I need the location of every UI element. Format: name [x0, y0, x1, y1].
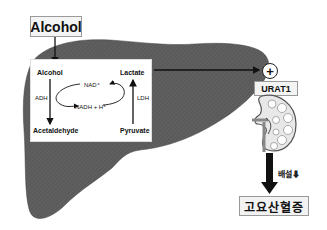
excretion-label: 배설⬇: [278, 168, 300, 179]
alcohol-label: Alcohol: [37, 69, 63, 76]
adh-enzyme-label: ADH: [35, 95, 48, 101]
stimulation-plus-icon: +: [262, 63, 278, 79]
decrease-arrow-icon: ⬇: [292, 170, 300, 179]
nadh-label: NADH + H⁺: [75, 103, 106, 110]
lactate-label: Lactate: [120, 69, 145, 76]
urat1-label: URAT1: [261, 84, 290, 94]
ldh-enzyme-label: LDH: [137, 95, 149, 101]
kidney-icon: [248, 94, 300, 154]
hyperuricemia-label: 고요산혈증: [244, 198, 304, 215]
hyperuricemia-box: 고요산혈증: [239, 196, 309, 216]
acetaldehyde-label: Acetaldehyde: [33, 127, 79, 134]
nad-label: NAD⁺: [84, 81, 100, 88]
pyruvate-label: Pyruvate: [120, 127, 150, 134]
